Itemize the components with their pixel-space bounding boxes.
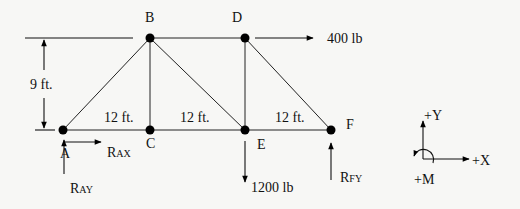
span-label-AC: 12 ft. — [104, 110, 134, 125]
joint-D — [241, 34, 250, 43]
joint-label-B: B — [145, 10, 154, 25]
load-label-1200: 1200 lb — [251, 180, 293, 195]
joint-label-F: F — [346, 117, 354, 132]
joint-C — [146, 126, 155, 135]
joint-label-A: A — [60, 146, 71, 161]
joint-A — [59, 126, 68, 135]
reaction-RFY: RFY — [331, 143, 362, 185]
load-400lb: 400 lb — [255, 31, 362, 46]
joint-E — [241, 126, 250, 135]
reaction-RAX: RAX — [64, 142, 132, 160]
moment-label: +M — [414, 172, 435, 187]
height-label: 9 ft. — [30, 77, 53, 92]
load-1200lb: 1200 lb — [245, 141, 293, 195]
joint-B — [146, 34, 155, 43]
axis-x-label: +X — [472, 153, 490, 168]
moment-arrow-icon — [414, 149, 434, 163]
reaction-label-RAY: RAY — [70, 181, 93, 196]
axis-y-label: +Y — [424, 108, 442, 123]
sign-convention: +Y +X +M — [414, 108, 490, 187]
span-label-EF: 12 ft. — [275, 110, 305, 125]
joint-label-C: C — [146, 136, 155, 151]
reaction-label-RFY: RFY — [340, 170, 362, 185]
span-label-CE: 12 ft. — [180, 110, 210, 125]
truss-diagram: 9 ft. A B C D E F 12 ft. 12 ft. 12 ft. 4… — [0, 0, 520, 209]
joint-F — [327, 126, 336, 135]
reaction-label-RAX: RAX — [107, 145, 132, 160]
joint-label-E: E — [257, 137, 266, 152]
load-label-400: 400 lb — [327, 31, 362, 46]
joint-label-D: D — [232, 10, 242, 25]
